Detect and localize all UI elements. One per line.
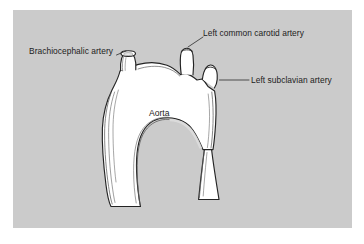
label-left-common-carotid-artery: Left common carotid artery: [203, 28, 305, 38]
label-brachiocephalic-artery: Brachiocephalic artery: [29, 46, 114, 56]
figure-container: Brachiocephalic artery Left common carot…: [0, 0, 364, 244]
label-left-subclavian-artery: Left subclavian artery: [251, 75, 332, 85]
brachiocephalic-lumen-inner: [124, 53, 133, 56]
aortic-arch-illustration: Brachiocephalic artery Left common carot…: [0, 0, 364, 244]
left-common-carotid-artery: [180, 48, 193, 75]
label-aorta: Aorta: [149, 108, 170, 118]
